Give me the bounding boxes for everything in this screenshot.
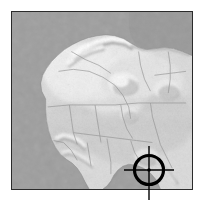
- locator-map-figure: [0, 0, 204, 207]
- crosshair-hit-target[interactable]: [131, 152, 166, 187]
